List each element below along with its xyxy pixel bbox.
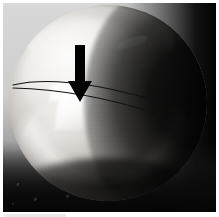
photograph-plate [3,3,216,212]
footer-strip [4,214,66,217]
figure-root [0,0,219,217]
film-grain-overlay [3,3,216,212]
